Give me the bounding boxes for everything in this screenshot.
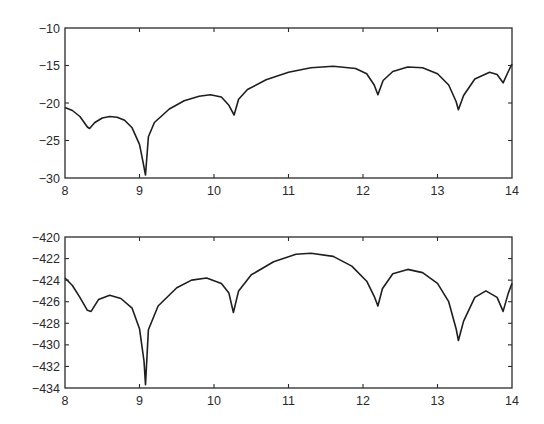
top-y-tick-label: −20 bbox=[39, 97, 60, 111]
top-y-tick-label: −15 bbox=[39, 59, 60, 73]
bottom-y-tick-label: −430 bbox=[32, 338, 60, 352]
bottom-x-tick-label: 12 bbox=[356, 394, 370, 408]
bottom-x-tick-label: 13 bbox=[431, 394, 445, 408]
top-y-tick-label: −25 bbox=[39, 134, 60, 148]
top-y-tick-label: −30 bbox=[39, 172, 60, 186]
top-ticks bbox=[65, 28, 512, 178]
top-tick-labels: 891011121314−10−15−20−25−30 bbox=[39, 22, 519, 199]
figure: 891011121314−10−15−20−25−30 891011121314… bbox=[0, 0, 544, 424]
top-y-tick-label: −10 bbox=[39, 22, 60, 36]
bottom-y-tick-label: −428 bbox=[32, 317, 60, 331]
top-x-tick-label: 13 bbox=[431, 184, 445, 198]
top-plot: 891011121314−10−15−20−25−30 bbox=[39, 22, 519, 199]
bottom-y-tick-label: −434 bbox=[32, 382, 60, 396]
bottom-y-tick-label: −424 bbox=[32, 274, 60, 288]
top-x-tick-label: 14 bbox=[505, 184, 519, 198]
bottom-plot: 891011121314−420−422−424−426−428−430−432… bbox=[32, 231, 519, 409]
top-axes-frame bbox=[65, 28, 512, 178]
bottom-tick-labels: 891011121314−420−422−424−426−428−430−432… bbox=[32, 231, 519, 409]
top-x-tick-label: 8 bbox=[62, 184, 69, 198]
top-x-tick-label: 11 bbox=[282, 184, 295, 198]
top-x-tick-label: 10 bbox=[207, 184, 221, 198]
bottom-ticks bbox=[65, 237, 512, 388]
top-x-tick-label: 9 bbox=[136, 184, 143, 198]
bottom-x-tick-label: 8 bbox=[62, 394, 69, 408]
bottom-x-tick-label: 9 bbox=[136, 394, 143, 408]
bottom-x-tick-label: 14 bbox=[505, 394, 519, 408]
bottom-y-tick-label: −420 bbox=[32, 231, 60, 245]
bottom-curve bbox=[65, 253, 512, 385]
bottom-x-tick-label: 11 bbox=[282, 394, 295, 408]
top-x-tick-label: 12 bbox=[356, 184, 370, 198]
bottom-x-tick-label: 10 bbox=[207, 394, 221, 408]
bottom-y-tick-label: −422 bbox=[32, 252, 60, 266]
bottom-axes-frame bbox=[65, 237, 512, 388]
bottom-y-tick-label: −426 bbox=[32, 295, 60, 309]
bottom-y-tick-label: −432 bbox=[32, 360, 60, 374]
top-curve bbox=[65, 64, 512, 175]
